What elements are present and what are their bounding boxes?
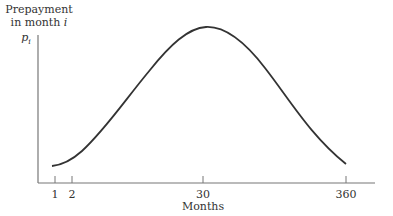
prepayment-curve <box>52 27 346 166</box>
x-tick-label-360: 360 <box>332 189 360 201</box>
y-axis-label-line1: Prepayment <box>0 4 78 16</box>
x-tick-label-1: 1 <box>49 189 61 201</box>
y-axis-label-line2: in month i <box>0 17 78 29</box>
y-symbol: pi <box>18 32 34 48</box>
x-axis-label: Months <box>173 201 233 213</box>
chart-canvas <box>0 0 393 216</box>
x-tick-label-2: 2 <box>66 189 78 201</box>
